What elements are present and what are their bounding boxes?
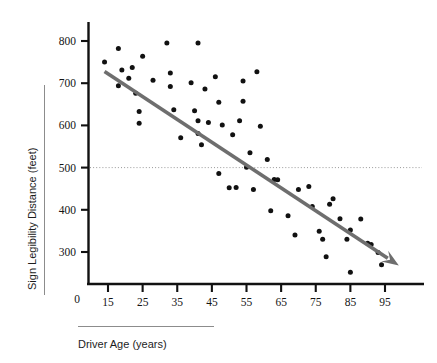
data-point <box>116 83 121 88</box>
x-tick-label: 45 <box>206 296 218 308</box>
data-point <box>202 87 207 92</box>
data-point <box>265 157 270 162</box>
y-tick-label: 400 <box>59 204 77 216</box>
data-point <box>286 213 291 218</box>
trend-line-shaft <box>105 71 388 258</box>
data-point <box>116 46 121 51</box>
x-tick-label: 15 <box>102 296 114 308</box>
data-point <box>306 184 311 189</box>
data-point <box>331 196 336 201</box>
x-tick-label: 55 <box>241 296 253 308</box>
data-point <box>247 150 252 155</box>
y-tick-label: 800 <box>59 35 77 47</box>
data-point <box>237 118 242 123</box>
data-point <box>254 69 259 74</box>
x-axis-ticks: 152535455565758595 <box>102 284 391 308</box>
data-point <box>119 68 124 73</box>
data-point <box>292 233 297 238</box>
data-point <box>137 109 142 114</box>
plot-canvas: 300400500600700800 152535455565758595 0 … <box>0 0 437 363</box>
data-point <box>348 270 353 275</box>
x-tick-label: 75 <box>310 296 322 308</box>
y-tick-label: 700 <box>59 77 77 89</box>
x-tick-label: 95 <box>379 296 391 308</box>
y-axis-title: Sign Legibility Distance (feet) <box>26 148 38 290</box>
data-point <box>320 237 325 242</box>
trend-line <box>105 71 399 265</box>
data-point <box>227 185 232 190</box>
data-point <box>317 229 322 234</box>
data-point <box>234 185 239 190</box>
x-tick-label: 25 <box>137 296 149 308</box>
y-tick-label: 300 <box>59 246 77 258</box>
data-point <box>251 187 256 192</box>
data-point <box>168 84 173 89</box>
y-tick-label: 500 <box>59 162 77 174</box>
data-point <box>102 60 107 65</box>
data-point <box>164 41 169 46</box>
data-point <box>216 100 221 105</box>
data-point <box>344 237 349 242</box>
data-point <box>258 124 263 129</box>
trend-line-arrowhead <box>381 251 399 266</box>
data-point <box>140 54 145 59</box>
data-point <box>178 135 183 140</box>
data-point <box>126 76 131 81</box>
origin-zero-label: 0 <box>74 293 80 305</box>
data-point <box>324 254 329 259</box>
data-point <box>196 41 201 46</box>
data-point <box>213 74 218 79</box>
data-point <box>192 108 197 113</box>
data-point <box>358 217 363 222</box>
data-point <box>296 187 301 192</box>
data-point <box>337 216 342 221</box>
data-point <box>171 107 176 112</box>
data-point <box>196 118 201 123</box>
data-point <box>189 80 194 85</box>
data-point <box>230 132 235 137</box>
y-tick-label: 600 <box>59 119 77 131</box>
data-point <box>216 171 221 176</box>
data-point <box>275 177 280 182</box>
data-point <box>168 71 173 76</box>
x-tick-label: 35 <box>172 296 184 308</box>
data-point <box>327 202 332 207</box>
data-point <box>268 208 273 213</box>
data-point <box>220 122 225 127</box>
data-point-group <box>102 41 384 275</box>
data-point <box>130 65 135 70</box>
x-tick-label: 85 <box>345 296 357 308</box>
data-point <box>379 262 384 267</box>
data-point <box>206 120 211 125</box>
data-point <box>241 99 246 104</box>
data-point <box>241 79 246 84</box>
x-axis-title: Driver Age (years) <box>78 338 167 350</box>
data-point <box>199 142 204 147</box>
x-tick-label: 65 <box>275 296 287 308</box>
data-point <box>137 121 142 126</box>
scatter-plot-figure: 300400500600700800 152535455565758595 0 … <box>0 0 437 363</box>
y-axis-ticks: 300400500600700800 <box>59 35 89 258</box>
data-point <box>151 78 156 83</box>
